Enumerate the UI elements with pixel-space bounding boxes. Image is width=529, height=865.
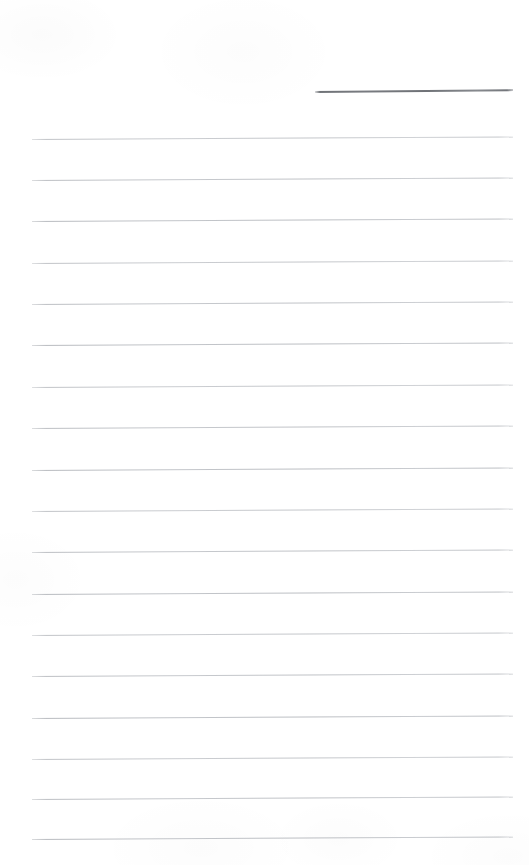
scanned-page xyxy=(0,0,529,865)
writing-rule xyxy=(32,467,513,471)
writing-rule xyxy=(32,384,513,388)
rules-layer xyxy=(0,0,529,865)
writing-rule xyxy=(32,836,513,840)
writing-rule xyxy=(32,756,513,760)
writing-rule xyxy=(32,632,513,636)
header-rule xyxy=(315,89,513,93)
writing-rule xyxy=(32,218,513,222)
writing-rule xyxy=(32,591,513,595)
writing-rule xyxy=(32,673,513,677)
writing-rule xyxy=(32,260,513,264)
writing-rule xyxy=(32,425,513,429)
writing-rule xyxy=(32,342,513,346)
writing-rule xyxy=(32,301,513,305)
writing-rule xyxy=(32,549,513,553)
writing-rule xyxy=(32,796,513,800)
writing-rule xyxy=(32,715,513,719)
writing-rule xyxy=(32,508,513,512)
writing-rule xyxy=(32,177,513,181)
writing-rule xyxy=(32,136,513,140)
